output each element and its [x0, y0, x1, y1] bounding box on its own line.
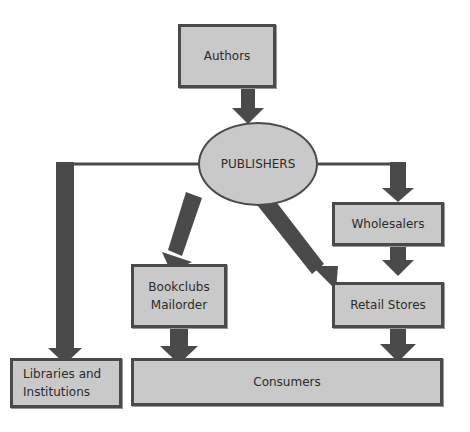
node-libraries-label: Libraries and Institutions [23, 365, 101, 401]
arrow-retail-to-consumers [380, 327, 416, 362]
node-retail-stores-label: Retail Stores [350, 296, 426, 314]
node-bookclubs-mailorder: Bookclubs Mailorder [131, 264, 227, 328]
node-bookclubs-label: Bookclubs Mailorder [148, 278, 209, 314]
arrow-authors-to-publishers [232, 88, 264, 124]
node-retail-stores: Retail Stores [332, 282, 444, 328]
node-publishers: PUBLISHERS [198, 122, 318, 206]
node-authors-label: Authors [204, 47, 251, 65]
node-publishers-label: PUBLISHERS [221, 157, 296, 171]
node-authors: Authors [178, 24, 276, 88]
arrow-wholesalers-to-retail [382, 244, 414, 276]
node-consumers-label: Consumers [253, 373, 320, 391]
node-consumers: Consumers [131, 358, 443, 406]
arrow-publishers-to-libraries [48, 162, 82, 364]
node-wholesalers-label: Wholesalers [351, 215, 424, 233]
arrow-publishers-to-wholesalers [382, 162, 414, 202]
arrow-publishers-to-bookclubs [162, 192, 202, 272]
node-wholesalers: Wholesalers [332, 202, 444, 246]
node-libraries-institutions: Libraries and Institutions [10, 358, 122, 408]
